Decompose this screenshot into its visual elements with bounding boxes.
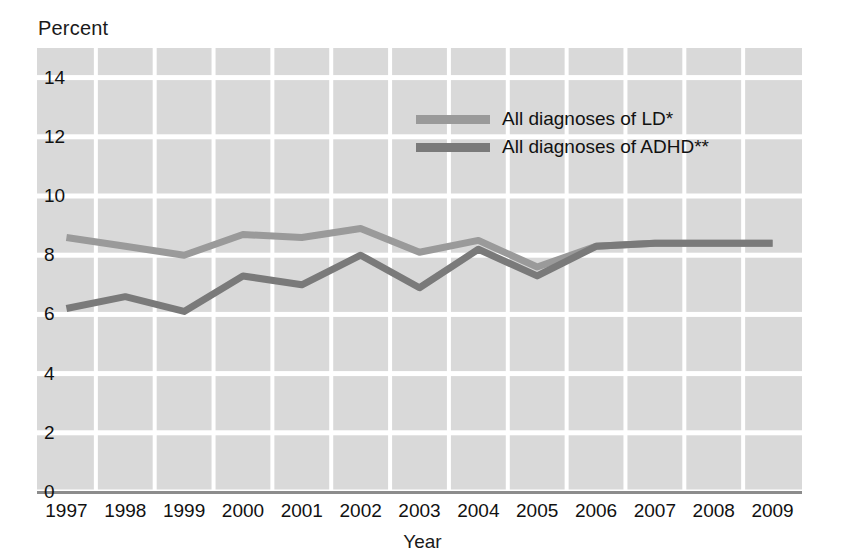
y-tick-label: 6: [44, 303, 78, 325]
x-axis-line: [37, 491, 802, 494]
chart-legend: All diagnoses of LD* All diagnoses of AD…: [416, 106, 776, 162]
gridline-horizontal: [37, 312, 802, 317]
legend-item-ld: All diagnoses of LD*: [416, 106, 776, 132]
x-tick-label: 2006: [568, 500, 624, 522]
series-line-ld: [66, 229, 772, 267]
y-tick-label: 8: [44, 244, 78, 266]
x-tick-label: 2002: [333, 500, 389, 522]
x-tick-label: 2009: [745, 500, 801, 522]
gridline-vertical: [153, 48, 157, 492]
gridline-horizontal: [37, 430, 802, 435]
x-tick-label: 2001: [274, 500, 330, 522]
legend-swatch-ld: [416, 115, 490, 124]
x-tick-label: 2000: [215, 500, 271, 522]
legend-label-ld: All diagnoses of LD*: [502, 108, 673, 130]
x-tick-label: 2003: [392, 500, 448, 522]
gridline-vertical: [270, 48, 274, 492]
y-tick-label: 4: [44, 363, 78, 385]
y-tick-label: 14: [44, 67, 78, 89]
gridline-vertical: [212, 48, 216, 492]
x-tick-label: 2008: [686, 500, 742, 522]
gridline-vertical: [94, 48, 98, 492]
series-lines: [66, 229, 772, 312]
x-tick-label: 1998: [97, 500, 153, 522]
y-tick-label: 10: [44, 185, 78, 207]
y-axis-title: Percent: [38, 17, 108, 40]
x-axis-title: Year: [0, 531, 845, 553]
legend-item-adhd: All diagnoses of ADHD**: [416, 134, 776, 160]
y-tick-label: 12: [44, 126, 78, 148]
x-tick-label: 2005: [509, 500, 565, 522]
legend-label-adhd: All diagnoses of ADHD**: [502, 136, 709, 158]
legend-swatch-adhd: [416, 143, 490, 152]
chart-page: Percent 14121086420 19971998199920002001…: [0, 0, 845, 559]
gridline-horizontal: [37, 371, 802, 376]
x-tick-label: 2007: [627, 500, 683, 522]
gridline-horizontal: [37, 75, 802, 80]
x-tick-label: 2004: [450, 500, 506, 522]
x-tick-label: 1997: [38, 500, 94, 522]
x-tick-label: 1999: [156, 500, 212, 522]
y-tick-label: 2: [44, 422, 78, 444]
gridline-horizontal: [37, 194, 802, 199]
